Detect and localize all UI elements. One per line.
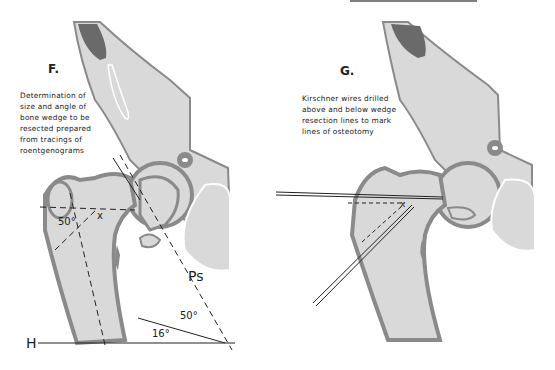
ps-label: Ps — [188, 268, 204, 284]
panel-g-drawing: x — [276, 22, 535, 340]
caption-line: above and below wedge — [302, 104, 396, 115]
panel-f-label: F. — [48, 62, 59, 76]
caption-line: Determination of — [20, 90, 91, 101]
caption-line: roentgenograms — [20, 145, 91, 156]
angle-ps-label: 50° — [180, 310, 198, 321]
caption-line: resection lines to mark — [302, 115, 396, 126]
caption-line: resected prepared — [20, 123, 91, 134]
panel-f-caption: Determination of size and angle of bone … — [20, 90, 91, 156]
angle-h-label: 16° — [152, 328, 170, 339]
svg-text:x: x — [400, 199, 406, 209]
caption-line: lines of osteotomy — [302, 126, 396, 137]
femur-g — [352, 168, 445, 340]
caption-line: size and angle of — [20, 101, 91, 112]
x-mark: x — [97, 210, 103, 221]
caption-line: bone wedge to be — [20, 112, 91, 123]
illustration-canvas: x — [0, 0, 555, 370]
caption-line: Kirschner wires drilled — [302, 93, 396, 104]
panel-f-drawing — [38, 22, 235, 350]
panel-g-caption: Kirschner wires drilled above and below … — [302, 93, 396, 137]
h-label: H — [26, 335, 37, 351]
caption-line: from tracings of — [20, 134, 91, 145]
angle-femur-label: 50° — [58, 216, 76, 227]
panel-g-label: G. — [340, 64, 354, 78]
